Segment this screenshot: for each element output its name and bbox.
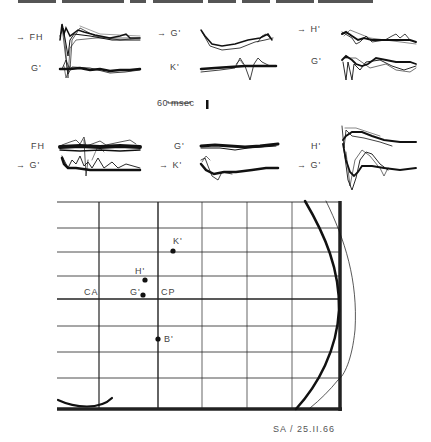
time-scale-bar	[168, 101, 190, 103]
trace-group-g-k-bottom	[201, 144, 278, 180]
point-k-label: K'	[173, 236, 183, 246]
trace-group-h-g-right-bottom	[342, 126, 416, 190]
landmark-ca-label: CA	[84, 287, 99, 297]
trace-group-h-g-right-top	[342, 30, 416, 80]
point-g	[140, 292, 145, 297]
trace-group-fh-g-bottom	[60, 137, 140, 176]
point-g-label: G'	[130, 287, 141, 297]
point-h-label: H'	[135, 266, 145, 276]
map-grid	[57, 201, 342, 411]
trace-group-g-k-top	[201, 30, 276, 80]
point-h	[142, 277, 147, 282]
point-k	[170, 248, 175, 253]
amplitude-scale-bar	[206, 100, 209, 109]
point-b	[155, 336, 160, 341]
scale-bar	[168, 100, 209, 109]
thin-outline-curve	[310, 201, 355, 408]
point-b-label: B'	[164, 334, 174, 344]
landmark-cp-label: CP	[161, 287, 176, 297]
trace-group-fh-g-top	[60, 24, 140, 78]
bottom-left-curve	[58, 398, 112, 407]
figure-canvas	[0, 0, 431, 442]
figure-caption: SA / 25.II.66	[273, 424, 335, 434]
